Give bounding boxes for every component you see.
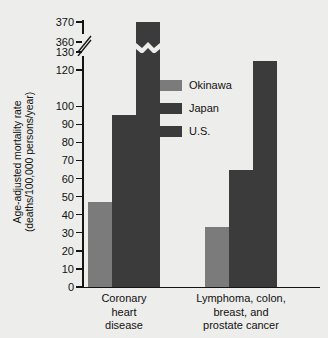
y-tick-label: 120 <box>56 65 74 76</box>
y-tick-label: 90 <box>62 119 74 130</box>
y-axis-title: Age-adjusted mortality rate (deaths/100,… <box>6 62 40 262</box>
y-axis-title-line2: (deaths/100,000 persons/year) <box>23 92 35 232</box>
y-tick-mark <box>76 160 82 161</box>
y-tick-mark <box>76 21 82 22</box>
legend-label-us: U.S. <box>189 126 210 137</box>
x-category-label-line: prostate cancer <box>171 319 311 333</box>
legend-swatch-japan <box>158 103 182 114</box>
legend-swatch-okinawa <box>158 80 182 91</box>
y-tick-mark <box>76 106 82 107</box>
y-tick-mark <box>76 250 82 251</box>
y-tick-label: 40 <box>62 209 74 220</box>
y-tick-label: 60 <box>62 173 74 184</box>
y-tick-mark <box>76 51 82 52</box>
bar-us <box>253 61 277 287</box>
y-tick-label: 50 <box>62 191 74 202</box>
y-tick-label: 100 <box>56 101 74 112</box>
bar-japan <box>112 115 136 287</box>
y-tick-mark <box>76 232 82 233</box>
y-tick-mark <box>76 178 82 179</box>
y-tick-mark <box>76 69 82 70</box>
y-tick-mark <box>76 142 82 143</box>
y-tick-mark <box>76 41 82 42</box>
legend-item: Japan <box>158 99 248 117</box>
y-tick-label: 70 <box>62 155 74 166</box>
legend-label-japan: Japan <box>189 103 219 114</box>
legend-swatch-us <box>158 126 182 137</box>
y-tick-label: 360 <box>56 37 74 48</box>
y-axis-title-line1: Age-adjusted mortality rate <box>11 101 23 224</box>
bar-us <box>136 22 160 287</box>
bar-okinawa <box>205 227 229 287</box>
y-tick-label: 130 <box>56 47 74 58</box>
legend-label-okinawa: Okinawa <box>189 80 232 91</box>
y-tick-mark <box>76 268 82 269</box>
y-tick-label: 20 <box>62 245 74 256</box>
x-category-label: Lymphoma, colon,breast, andprostate canc… <box>171 292 311 333</box>
y-tick-label: 30 <box>62 227 74 238</box>
y-tick-label: 0 <box>68 282 74 293</box>
chart-figure: Age-adjusted mortality rate (deaths/100,… <box>0 0 328 338</box>
x-category-label-line: breast, and <box>171 306 311 320</box>
y-tick-mark <box>76 214 82 215</box>
y-tick-mark <box>76 196 82 197</box>
bar-okinawa <box>88 202 112 287</box>
y-tick-label: 10 <box>62 263 74 274</box>
legend-item: Okinawa <box>158 76 248 94</box>
legend: Okinawa Japan U.S. <box>158 76 248 145</box>
legend-item: U.S. <box>158 122 248 140</box>
y-tick-mark <box>76 286 82 287</box>
y-tick-mark <box>76 124 82 125</box>
bar-japan <box>229 170 253 288</box>
y-tick-label: 80 <box>62 137 74 148</box>
x-category-label-line: Lymphoma, colon, <box>171 292 311 306</box>
y-tick-label: 370 <box>56 17 74 28</box>
